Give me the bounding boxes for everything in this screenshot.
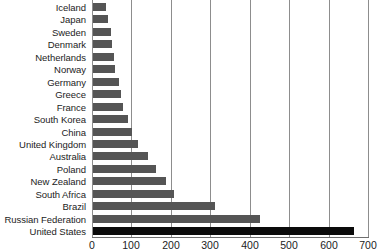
- category-label: Sweden: [52, 27, 86, 38]
- category-label: Germany: [47, 77, 86, 88]
- bar: [93, 190, 174, 198]
- gridline-700: [368, 0, 369, 238]
- category-label: Australia: [49, 151, 86, 162]
- x-tick-label: 500: [267, 239, 311, 251]
- x-tick-label: 0: [70, 239, 114, 251]
- plot-area: [92, 0, 368, 238]
- bar: [93, 15, 108, 23]
- category-label: New Zealand: [31, 176, 86, 187]
- category-label: Brazil: [63, 201, 86, 212]
- bar: [93, 177, 166, 185]
- bar: [93, 78, 119, 86]
- category-label: Japan: [60, 14, 86, 25]
- bar: [93, 115, 128, 123]
- bar: [93, 3, 106, 11]
- bar: [93, 227, 354, 235]
- x-tick-label: 200: [149, 239, 193, 251]
- bar: [93, 90, 121, 98]
- bar: [93, 165, 156, 173]
- category-axis-labels: IcelandJapanSwedenDenmarkNetherlandsNorw…: [0, 0, 89, 238]
- category-label: United Kingdom: [19, 139, 86, 150]
- category-label: Poland: [57, 164, 86, 175]
- category-label: United States: [30, 226, 86, 237]
- value-axis-ticks: 0100200300400500600700: [0, 238, 377, 251]
- bar: [93, 202, 215, 210]
- category-label: Denmark: [48, 39, 86, 50]
- category-label: Russian Federation: [5, 214, 86, 225]
- bar: [93, 28, 111, 36]
- bar: [93, 128, 132, 136]
- x-tick-label: 300: [188, 239, 232, 251]
- bar: [93, 103, 123, 111]
- gridline-500: [289, 0, 290, 238]
- category-label: China: [61, 127, 86, 138]
- gridline-400: [250, 0, 251, 238]
- category-label: Iceland: [56, 2, 86, 13]
- bar: [93, 53, 114, 61]
- category-label: Netherlands: [35, 52, 86, 63]
- category-label: Greece: [55, 89, 86, 100]
- gridline-600: [329, 0, 330, 238]
- bar: [93, 65, 115, 73]
- bar: [93, 215, 260, 223]
- category-label: Norway: [54, 64, 86, 75]
- category-label: South Africa: [35, 189, 86, 200]
- x-tick-label: 600: [307, 239, 351, 251]
- bar: [93, 40, 112, 48]
- bar: [93, 140, 138, 148]
- category-label: South Korea: [34, 114, 86, 125]
- x-tick-label: 100: [109, 239, 153, 251]
- x-tick-label: 700: [346, 239, 382, 251]
- category-label: France: [57, 102, 86, 113]
- x-tick-label: 400: [228, 239, 272, 251]
- bar: [93, 152, 148, 160]
